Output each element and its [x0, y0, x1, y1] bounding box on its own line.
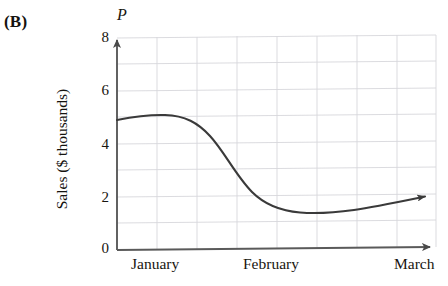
plot-area: [0, 0, 448, 286]
chart-figure: (B) Sales ($ thousands) P 8 6 4 2 0 Janu…: [0, 0, 448, 286]
sales-curve: [117, 115, 425, 213]
grid-lines: [117, 35, 436, 249]
x-axis-line: [117, 247, 430, 250]
